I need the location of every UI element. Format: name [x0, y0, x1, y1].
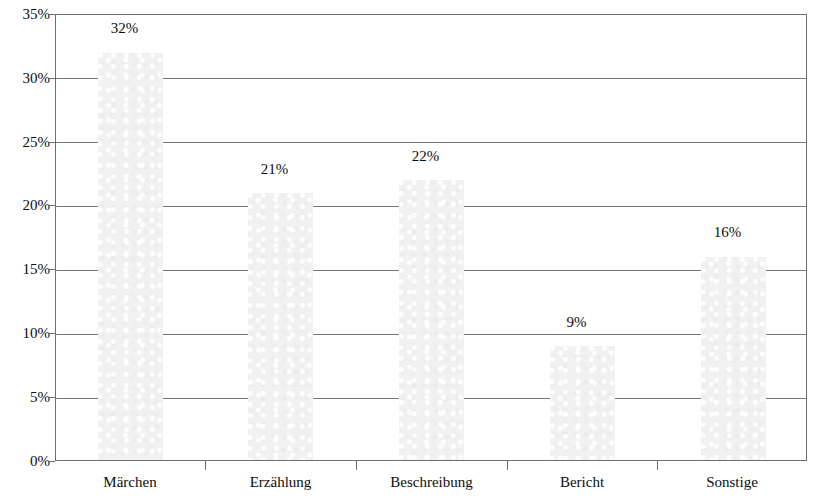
y-axis: 35% 30% 25% 20% 15% 10% 5% 0% [0, 0, 50, 499]
y-tick-label-25: 25% [4, 135, 50, 150]
bar-beschreibung[interactable] [399, 180, 464, 460]
gridline-30 [56, 78, 806, 79]
y-tick-label-5: 5% [4, 390, 50, 405]
y-tick-label-30: 30% [4, 71, 50, 86]
bar-value-label-sonstige: 16% [670, 225, 785, 240]
bar-bericht[interactable] [550, 346, 615, 460]
bar-value-label-maerchen: 32% [67, 21, 182, 36]
x-tick-mark-1 [205, 461, 206, 470]
bar-value-label-erzaehlung: 21% [217, 162, 332, 177]
y-tick-mark-0 [49, 461, 55, 462]
x-tick-mark-2 [356, 461, 357, 470]
y-tick-label-0: 0% [4, 454, 50, 469]
x-tick-mark-3 [507, 461, 508, 470]
x-category-label-bericht: Bericht [507, 474, 657, 490]
x-category-label-sonstige: Sonstige [657, 474, 807, 490]
bar-sonstige[interactable] [701, 257, 766, 460]
y-tick-label-35: 35% [4, 7, 50, 22]
x-category-label-erzaehlung: Erzählung [205, 474, 356, 490]
y-tick-label-20: 20% [4, 198, 50, 213]
gridline-25 [56, 142, 806, 143]
y-tick-label-10: 10% [4, 326, 50, 341]
x-category-label-beschreibung: Beschreibung [356, 474, 507, 490]
bar-value-label-beschreibung: 22% [368, 149, 483, 164]
x-category-label-maerchen: Märchen [55, 474, 205, 490]
bar-chart: 35% 30% 25% 20% 15% 10% 5% 0% 32% 21% 22… [0, 0, 814, 499]
bar-maerchen[interactable] [98, 53, 163, 460]
x-tick-mark-4 [657, 461, 658, 470]
bar-value-label-bericht: 9% [519, 315, 634, 330]
bar-erzaehlung[interactable] [248, 193, 313, 460]
y-tick-label-15: 15% [4, 262, 50, 277]
